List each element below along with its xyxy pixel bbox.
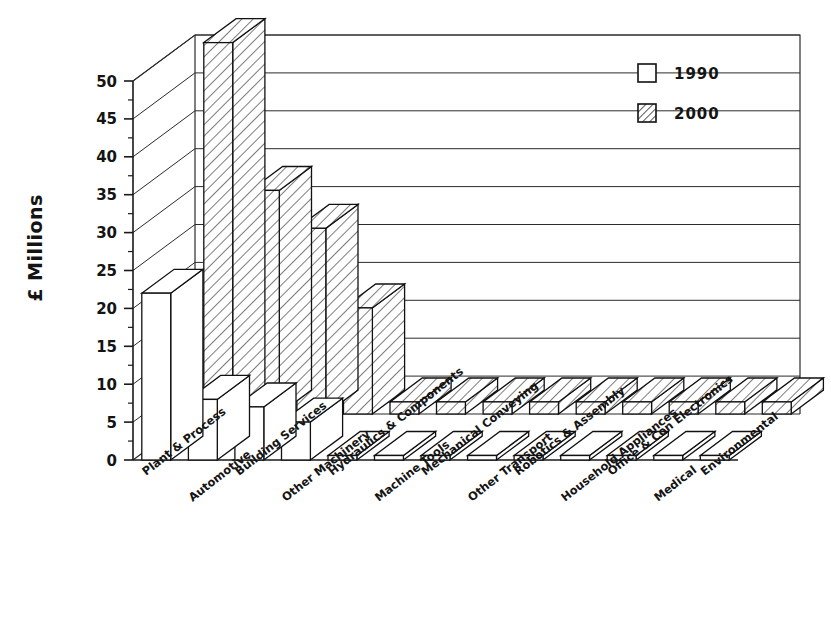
legend-label-1990[interactable]: 1990 [674, 65, 720, 83]
bar-side-face [279, 167, 311, 415]
chart-background [0, 0, 831, 628]
y-tick-label: 0 [107, 452, 117, 470]
bar-front-face [375, 456, 404, 461]
bar-front-face [204, 43, 233, 414]
bar-chart-3d: 05101520253035404550 Plant & ProcessAuto… [0, 0, 831, 628]
y-tick-label: 15 [96, 338, 117, 356]
bar-side-face [326, 204, 358, 414]
bar-front-face [716, 402, 745, 414]
y-tick-label: 35 [96, 186, 117, 204]
bar-front-face [561, 456, 590, 461]
y-tick-label: 40 [96, 148, 117, 166]
bar-2000-0 [204, 19, 265, 414]
y-tick-label: 45 [96, 110, 117, 128]
bar-front-face [142, 293, 171, 460]
bar-front-face [468, 456, 497, 461]
bar-side-face [233, 19, 265, 414]
bar-front-face [623, 402, 652, 414]
bar-front-face [437, 402, 466, 414]
y-tick-label: 5 [107, 414, 117, 432]
bar-front-face [530, 402, 559, 414]
bar-front-face [654, 456, 683, 461]
chart-container: 05101520253035404550 Plant & ProcessAuto… [0, 0, 831, 628]
y-tick-label: 10 [96, 376, 117, 394]
bar-front-face [762, 402, 791, 414]
y-tick-label: 25 [96, 262, 117, 280]
y-tick-label: 30 [96, 224, 117, 242]
y-tick-label: 20 [96, 300, 117, 318]
legend-swatch-1990[interactable] [638, 64, 656, 82]
y-axis-title: £ Millions [24, 194, 46, 302]
y-tick-label: 50 [96, 73, 117, 91]
legend-swatch-2000[interactable] [638, 104, 656, 122]
legend-label-2000[interactable]: 2000 [674, 105, 720, 123]
